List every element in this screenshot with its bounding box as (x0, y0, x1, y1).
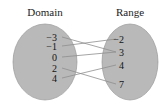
range-element-0: −2 (113, 34, 124, 45)
domain-element-1: −1 (46, 41, 57, 52)
range-element-1: 3 (119, 47, 124, 58)
domain-element-4: 4 (52, 73, 57, 84)
mapping-diagram-figure: Domain Range −3−1024 −2347 (0, 0, 167, 109)
domain-element-2: 0 (52, 52, 57, 63)
diagram-canvas: Domain Range −3−1024 −2347 (0, 0, 167, 109)
domain-title: Domain (27, 6, 63, 18)
range-title: Range (116, 6, 144, 18)
domain-ellipse (13, 24, 77, 100)
range-element-2: 4 (119, 60, 124, 71)
range-ellipse (102, 24, 158, 100)
range-element-3: 7 (119, 79, 124, 90)
